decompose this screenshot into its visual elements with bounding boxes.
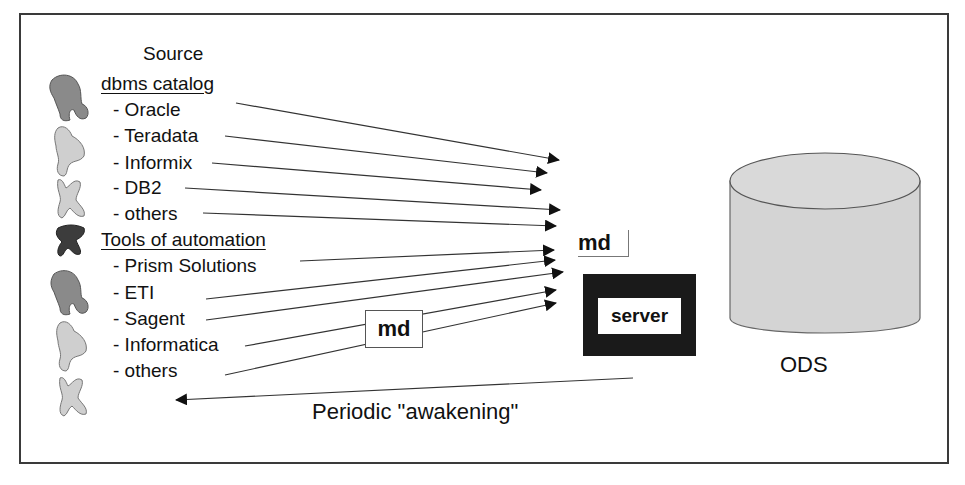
tools-heading: Tools of automation: [101, 229, 266, 251]
tool-item-prism: - Prism Solutions: [113, 255, 257, 277]
tool-item-informatica: - Informatica: [113, 334, 219, 356]
database-icon-dark-2: [51, 271, 88, 315]
dbms-item-informix: - Informix: [113, 152, 192, 174]
tool-item-others: - others: [113, 360, 177, 382]
ods-cylinder-icon: [730, 153, 920, 333]
database-icon-dark-1: [50, 75, 88, 121]
server-box: server: [583, 274, 696, 356]
periodic-awakening-label: Periodic "awakening": [312, 399, 518, 425]
dbms-item-teradata: - Teradata: [113, 125, 198, 147]
database-icon-light-2: [58, 180, 85, 218]
metadata-label: md: [578, 230, 629, 257]
dbms-item-db2: - DB2: [113, 177, 162, 199]
dbms-item-others: - others: [113, 203, 177, 225]
ods-label: ODS: [780, 352, 828, 378]
database-icon-light-3: [57, 322, 87, 371]
database-icon-light-4: [60, 378, 87, 416]
dbms-item-oracle: - Oracle: [113, 99, 181, 121]
dbms-catalog-heading: dbms catalog: [101, 73, 214, 95]
source-arrows: [176, 103, 633, 400]
database-icon-black: [56, 225, 84, 256]
tool-item-eti: - ETI: [113, 282, 154, 304]
tool-item-sagent: - Sagent: [113, 308, 185, 330]
server-label: server: [598, 298, 681, 334]
database-icon-light-1: [55, 127, 85, 176]
metadata-box: md: [365, 310, 423, 348]
source-title: Source: [143, 43, 203, 65]
